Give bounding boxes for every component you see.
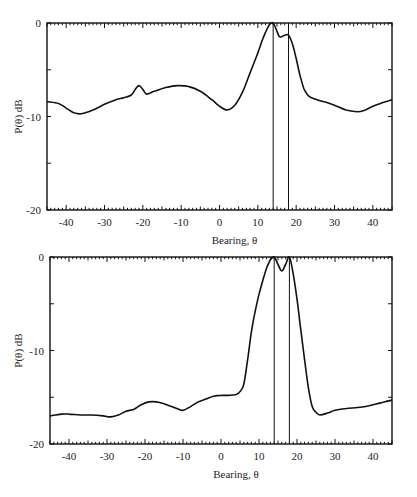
top-plot-curve	[47, 23, 392, 114]
bottom-plot-bearing-markers	[274, 257, 289, 444]
top-plot-x-axis-label: Bearing, θ	[212, 234, 258, 246]
y-tick-label: -20	[26, 204, 41, 216]
y-tick-label: -20	[29, 438, 44, 450]
y-tick-label: -10	[29, 345, 44, 357]
figure: 0-10-20 -40-30-20-10010203040 P(θ) dB Be…	[0, 0, 417, 497]
top-plot-y-tick-labels: 0-10-20	[26, 17, 41, 216]
top-plot-bearing-markers	[273, 23, 288, 210]
bottom-plot-x-axis-label: Bearing, θ	[213, 468, 259, 480]
x-tick-label: -30	[100, 450, 115, 462]
x-tick-label: -20	[138, 450, 153, 462]
x-tick-label: -40	[59, 216, 74, 228]
x-tick-label: -30	[97, 216, 112, 228]
x-tick-label: 30	[329, 216, 341, 228]
x-tick-label: 20	[291, 216, 303, 228]
x-tick-label: 30	[330, 450, 342, 462]
x-tick-label: -20	[135, 216, 150, 228]
top-plot-axes	[47, 23, 392, 210]
top-plot-x-tick-labels: -40-30-20-10010203040	[59, 216, 379, 228]
top-plot-ticks	[47, 23, 392, 210]
x-tick-label: -40	[62, 450, 77, 462]
bottom-plot-curve	[50, 257, 392, 417]
x-tick-label: 0	[217, 216, 223, 228]
bottom-plot-x-tick-labels: -40-30-20-10010203040	[62, 450, 379, 462]
x-tick-label: 40	[367, 216, 379, 228]
x-tick-label: -10	[174, 216, 189, 228]
plot-frame	[47, 23, 392, 210]
bottom-plot-y-axis-label: P(θ) dB	[12, 333, 25, 367]
top-plot: 0-10-20 -40-30-20-10010203040 P(θ) dB Be…	[12, 17, 392, 246]
y-tick-label: -10	[26, 111, 41, 123]
y-tick-label: 0	[36, 17, 42, 29]
x-tick-label: 0	[218, 450, 224, 462]
y-tick-label: 0	[39, 251, 45, 263]
top-plot-y-axis-label: P(θ) dB	[12, 99, 25, 133]
x-tick-label: 10	[252, 216, 264, 228]
x-tick-label: 10	[254, 450, 266, 462]
chart-canvas: 0-10-20 -40-30-20-10010203040 P(θ) dB Be…	[0, 0, 417, 497]
bottom-plot: 0-10-20 -40-30-20-10010203040 P(θ) dB Be…	[12, 251, 392, 480]
x-tick-label: 40	[368, 450, 380, 462]
x-tick-label: -10	[176, 450, 191, 462]
bottom-plot-y-tick-labels: 0-10-20	[29, 251, 44, 450]
x-tick-label: 20	[292, 450, 304, 462]
